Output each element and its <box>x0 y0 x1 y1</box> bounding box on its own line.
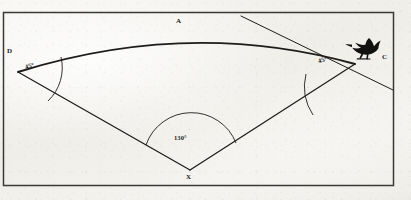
angle-arc-marker-c <box>304 74 313 115</box>
frame-border <box>4 13 394 186</box>
diagram-page: A D C X 45° 45° 130° <box>0 0 411 200</box>
segment-x-to-c <box>190 64 355 170</box>
label-vertex-c: C <box>382 54 387 61</box>
label-vertex-d: D <box>7 48 12 55</box>
label-arc-top-a: A <box>176 18 181 25</box>
label-angle-x: 130° <box>174 135 187 142</box>
label-vertex-x: X <box>186 174 191 181</box>
geometry-figure <box>0 0 411 200</box>
bird-silhouette-icon <box>345 38 380 60</box>
angle-arc-marker-x <box>146 113 236 145</box>
